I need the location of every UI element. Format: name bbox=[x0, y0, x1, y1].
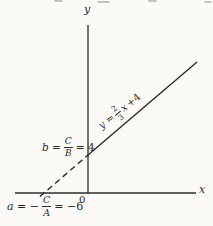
y-intercept-denominator: B bbox=[64, 147, 73, 158]
x-intercept-label: a = − C A = −6 bbox=[7, 195, 83, 217]
graph-figure: y x 0 y = 2 3 x +4 b = C B = 4 a = − C A… bbox=[0, 0, 213, 226]
x-intercept-denominator: A bbox=[42, 206, 51, 218]
y-intercept-value: = 4 bbox=[76, 142, 95, 153]
y-intercept-label: b = C B = 4 bbox=[42, 137, 95, 158]
y-axis-label: y bbox=[84, 4, 90, 15]
y-intercept-fraction: C B bbox=[64, 137, 73, 158]
function-line-solid bbox=[88, 62, 197, 155]
x-intercept-lhs: a = − bbox=[7, 201, 39, 212]
x-axis-label: x bbox=[199, 184, 205, 195]
function-line-dashed bbox=[40, 155, 88, 197]
x-intercept-numerator: C bbox=[42, 195, 51, 206]
x-intercept-value: = −6 bbox=[54, 201, 83, 212]
y-intercept-numerator: C bbox=[64, 137, 73, 147]
x-intercept-fraction: C A bbox=[42, 195, 51, 217]
y-intercept-lhs: b = bbox=[42, 142, 61, 153]
